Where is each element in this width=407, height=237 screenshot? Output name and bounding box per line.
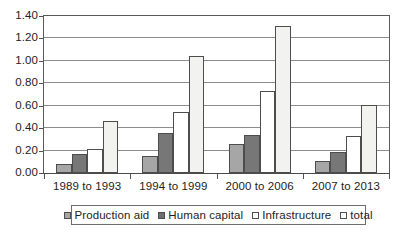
x-axis-tick-mark — [44, 174, 45, 179]
bar-human-capital — [244, 135, 260, 173]
x-axis-tick-mark — [130, 174, 131, 179]
x-axis-tick-mark — [303, 174, 304, 179]
legend-label: total — [350, 209, 372, 221]
bar-total — [275, 26, 291, 173]
x-axis-category-label: 2000 to 2006 — [217, 180, 303, 193]
legend-swatch-icon — [252, 212, 259, 219]
bar-total — [103, 121, 119, 173]
x-axis-category-label: 1994 to 1999 — [130, 180, 216, 193]
bar-production-aid — [315, 161, 331, 173]
bar-total — [361, 105, 377, 173]
legend-swatch-icon — [64, 212, 71, 219]
bar-infrastructure — [346, 136, 362, 173]
legend-swatch-icon — [340, 212, 347, 219]
bar-infrastructure — [87, 149, 103, 173]
plot-area — [43, 15, 390, 174]
bar-group — [217, 16, 303, 173]
legend-label: Human capital — [168, 209, 243, 221]
y-axis-tick-label: 0.80 — [4, 77, 38, 88]
legend-label: Production aid — [74, 209, 149, 221]
y-axis-tick-label: 0.20 — [4, 145, 38, 156]
legend-swatch-icon — [158, 212, 165, 219]
bar-human-capital — [330, 152, 346, 173]
y-axis-tick-label: 0.60 — [4, 100, 38, 111]
bar-group — [44, 16, 130, 173]
x-axis-category-label: 2007 to 2013 — [303, 180, 389, 193]
legend-label: Infrastructure — [262, 209, 331, 221]
y-axis-tick-label: 1.20 — [4, 32, 38, 43]
bar-human-capital — [158, 133, 174, 173]
legend-item-human-capital[interactable]: Human capital — [158, 209, 243, 221]
x-axis-tick-mark — [389, 174, 390, 179]
bar-group — [303, 16, 389, 173]
chart-legend: Production aidHuman capitalInfrastructur… — [71, 205, 366, 225]
legend-item-production-aid[interactable]: Production aid — [64, 209, 149, 221]
bar-infrastructure — [260, 91, 276, 173]
y-axis-tick-label: 1.00 — [4, 55, 38, 66]
legend-item-total[interactable]: total — [340, 209, 372, 221]
bar-group — [130, 16, 216, 173]
y-axis-tick-label: 0.00 — [4, 167, 38, 178]
bar-production-aid — [229, 144, 245, 173]
y-axis-tick-label: 1.40 — [4, 10, 38, 21]
y-axis-tick-label: 0.40 — [4, 122, 38, 133]
bar-production-aid — [56, 164, 72, 173]
bar-production-aid — [142, 156, 158, 173]
legend-item-infrastructure[interactable]: Infrastructure — [252, 209, 331, 221]
x-axis-category-label: 1989 to 1993 — [44, 180, 130, 193]
bar-human-capital — [72, 154, 88, 173]
bar-total — [189, 56, 205, 173]
bar-chart-figure: 0.000.200.400.600.801.001.201.40 1989 to… — [0, 0, 407, 237]
bar-infrastructure — [173, 112, 189, 173]
x-axis-tick-mark — [217, 174, 218, 179]
